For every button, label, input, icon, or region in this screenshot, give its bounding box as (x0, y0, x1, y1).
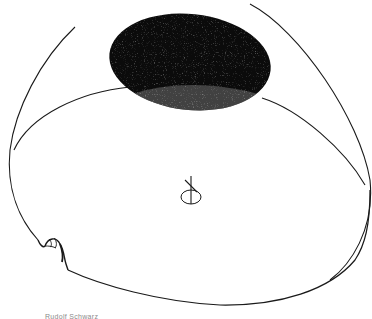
altar-symbol (181, 176, 201, 204)
oculus-opening (100, 6, 280, 120)
vault-inner-left-curve (14, 87, 130, 150)
dome-outer-outline (9, 27, 75, 240)
floor-curve (68, 190, 370, 305)
entrance-niche (38, 238, 68, 270)
architectural-drawing (0, 0, 372, 319)
vault-inner-right-curve (262, 98, 365, 185)
dome-right-outline (250, 4, 371, 280)
caption-credit: Rudolf Schwarz (45, 313, 98, 319)
